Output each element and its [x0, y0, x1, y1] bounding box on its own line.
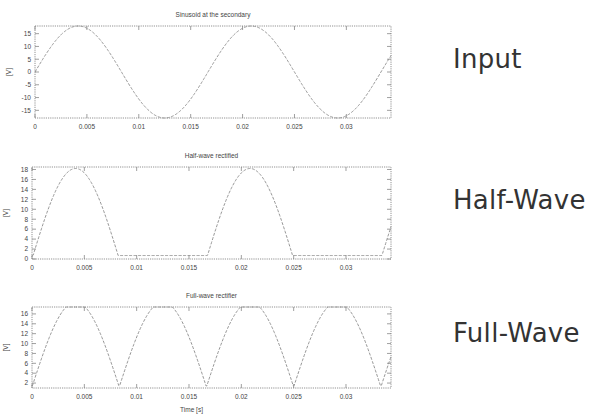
y-tick-label: 14	[21, 186, 29, 193]
rectifier-waveform-charts: Sinusoid at the secondary00.0050.010.015…	[0, 0, 420, 417]
x-tick-label: 0.015	[181, 393, 198, 400]
label-half-wave: Half-Wave	[453, 185, 586, 215]
x-tick-label: 0.02	[235, 393, 248, 400]
x-tick-label: 0.025	[286, 264, 303, 271]
y-tick-label: 8	[24, 216, 28, 223]
y-tick-label: -15	[22, 107, 32, 114]
chart-half-wave: Half-wave rectified00.0050.010.0150.020.…	[2, 152, 391, 271]
x-tick-label: 0.005	[79, 123, 96, 130]
y-tick-label: 2	[24, 245, 28, 252]
x-tick-label: 0.01	[132, 123, 145, 130]
label-full-wave: Full-Wave	[453, 318, 580, 348]
x-tick-label: 0.03	[340, 264, 353, 271]
y-tick-label: 12	[21, 196, 29, 203]
y-axis-label: [V]	[2, 343, 10, 351]
x-tick-label: 0.02	[236, 123, 249, 130]
x-tick-label: 0	[33, 123, 37, 130]
chart-title: Half-wave rectified	[185, 152, 239, 159]
y-tick-label: 2	[24, 379, 28, 386]
y-tick-label: 5	[27, 56, 31, 63]
plot-frame	[32, 307, 391, 388]
x-tick-label: 0.02	[235, 264, 248, 271]
plot-frame	[35, 26, 391, 118]
y-tick-label: 16	[21, 176, 29, 183]
x-tick-label: 0.015	[181, 264, 198, 271]
y-tick-label: 4	[24, 369, 28, 376]
y-tick-label: -5	[25, 81, 31, 88]
y-tick-label: 8	[24, 350, 28, 357]
x-tick-label: 0.03	[340, 393, 353, 400]
y-tick-label: 15	[24, 30, 32, 37]
plot-frame	[32, 167, 391, 259]
y-axis-label: [V]	[5, 68, 13, 76]
y-tick-label: 6	[24, 360, 28, 367]
y-tick-label: 0	[27, 68, 31, 75]
y-tick-label: 10	[24, 43, 32, 50]
y-tick-label: 4	[24, 235, 28, 242]
y-tick-label: -10	[22, 94, 32, 101]
y-tick-label: 18	[21, 166, 29, 173]
x-tick-label: 0.005	[76, 393, 93, 400]
chart-full-wave: Full-wave rectifier00.0050.010.0150.020.…	[2, 292, 391, 414]
waveform-line	[32, 307, 391, 386]
waveform-line	[32, 168, 391, 255]
chart-input-sinusoid: Sinusoid at the secondary00.0050.010.015…	[5, 11, 391, 130]
x-tick-label: 0	[30, 264, 34, 271]
chart-title: Sinusoid at the secondary	[176, 11, 252, 19]
chart-title: Full-wave rectifier	[186, 292, 238, 299]
y-tick-label: 10	[21, 340, 29, 347]
y-axis-label: [V]	[2, 209, 10, 217]
x-tick-label: 0.01	[130, 393, 143, 400]
x-tick-label: 0	[30, 393, 34, 400]
x-tick-label: 0.025	[286, 393, 303, 400]
label-input: Input	[453, 44, 522, 74]
x-tick-label: 0.01	[130, 264, 143, 271]
x-tick-label: 0.005	[76, 264, 93, 271]
y-tick-label: 16	[21, 310, 29, 317]
x-tick-label: 0.03	[340, 123, 353, 130]
y-tick-label: 10	[21, 206, 29, 213]
x-tick-label: 0.015	[183, 123, 200, 130]
y-tick-label: 12	[21, 330, 29, 337]
y-tick-label: 0	[24, 255, 28, 262]
x-axis-label: Time [s]	[180, 406, 203, 414]
x-tick-label: 0.025	[286, 123, 303, 130]
y-tick-label: 14	[21, 320, 29, 327]
waveform-line	[35, 26, 391, 118]
y-tick-label: 6	[24, 225, 28, 232]
